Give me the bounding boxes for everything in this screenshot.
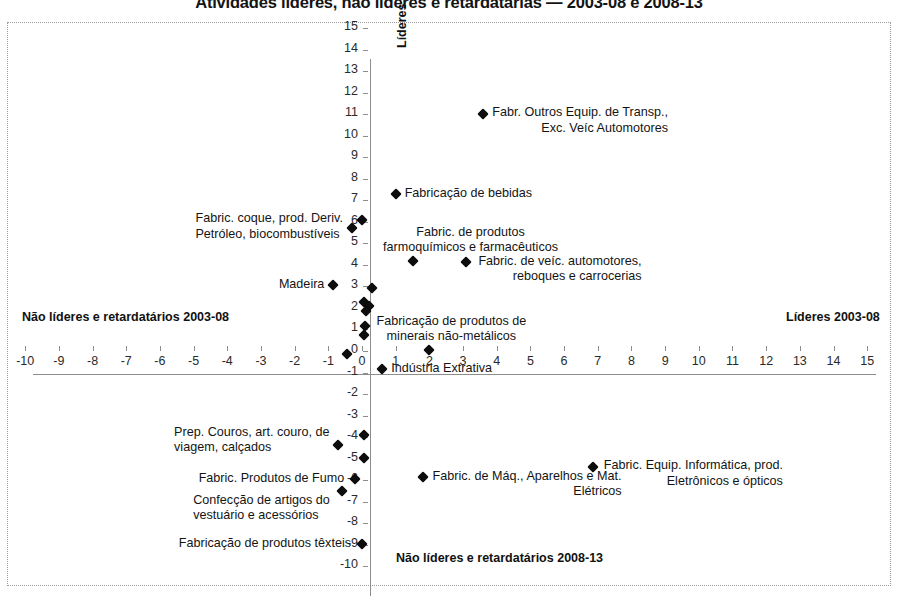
y-axis-tick-label: -3	[336, 407, 358, 421]
y-axis-tick-label: -8	[336, 514, 358, 528]
x-axis-tick-label: -9	[44, 354, 74, 368]
y-axis-tick	[363, 394, 368, 395]
y-axis-tick-label: 9	[336, 148, 358, 162]
y-axis-tick	[363, 416, 368, 417]
x-axis-tick-label: -4	[212, 354, 242, 368]
y-axis-tick	[363, 179, 368, 180]
y-axis-tick-label: 4	[336, 256, 358, 270]
x-axis-tick-label: 5	[515, 354, 545, 368]
x-axis-tick	[598, 346, 599, 351]
data-point-label: Fabricação de produtos têxteis	[179, 536, 351, 552]
x-axis-tick	[732, 346, 733, 351]
data-point-label: Fabricação de produtos de minerais não-m…	[376, 314, 526, 345]
x-axis-tick	[497, 346, 498, 351]
x-axis-tick	[699, 346, 700, 351]
x-axis-tick	[160, 346, 161, 351]
x-axis-tick	[564, 346, 565, 351]
y-axis-tick	[363, 523, 368, 524]
x-axis-tick-label: -7	[111, 354, 141, 368]
y-axis-tick	[363, 71, 368, 72]
x-axis-tick-label: -5	[179, 354, 209, 368]
x-axis-tick	[328, 346, 329, 351]
chart-page: Atividades líderes, não líderes e retard…	[0, 0, 898, 596]
x-axis-tick	[631, 346, 632, 351]
y-axis-tick-label: 3	[336, 277, 358, 291]
x-axis-tick	[261, 346, 262, 351]
y-axis-tick	[363, 50, 368, 51]
x-axis-tick-label: 7	[583, 354, 613, 368]
x-axis-tick-label: 15	[852, 354, 882, 368]
x-axis-tick-label: -3	[246, 354, 276, 368]
y-axis-tick	[363, 373, 368, 374]
y-axis-tick-label: 15	[336, 19, 358, 33]
data-point-label: Fabric. de produtos farmoquímicos e farm…	[383, 225, 558, 256]
data-point-label: Madeira	[279, 277, 325, 293]
y-axis-tick	[363, 114, 368, 115]
x-axis-tick	[834, 346, 835, 351]
x-axis-tick	[93, 346, 94, 351]
data-point-label: Fabric. Equip. Informática, prod. Eletrô…	[604, 458, 783, 489]
x-axis-tick	[463, 346, 464, 351]
y-axis-tick	[363, 157, 368, 158]
x-axis-tick-label: 14	[819, 354, 849, 368]
data-point-label: Fabric. coque, prod. Deriv. Petróleo, bi…	[195, 211, 342, 242]
page-title: Atividades líderes, não líderes e retard…	[0, 0, 898, 12]
y-axis-tick-label: 7	[336, 191, 358, 205]
x-axis-tick-label: 12	[751, 354, 781, 368]
y-axis-tick-label: -10	[336, 557, 358, 571]
x-axis-tick-label: 11	[717, 354, 747, 368]
x-axis-tick	[25, 346, 26, 351]
y-axis-tick	[363, 502, 368, 503]
x-axis-tick-label: -6	[145, 354, 175, 368]
x-axis-tick	[227, 346, 228, 351]
data-point-label: Fabric. Produtos de Fumo	[199, 471, 345, 487]
y-axis-tick-label: 13	[336, 62, 358, 76]
data-point-label: Fabricação de bebidas	[405, 186, 532, 202]
quadrant-caption-bottom: Não líderes e retardatários 2008-13	[396, 551, 603, 565]
y-axis-tick-label: 8	[336, 170, 358, 184]
y-axis-tick-label: -1	[336, 364, 358, 378]
y-axis-tick	[363, 265, 368, 266]
x-axis-tick-label: 13	[785, 354, 815, 368]
x-axis-tick-label: 8	[616, 354, 646, 368]
quadrant-caption-right: Líderes 2003-08	[786, 310, 880, 324]
x-axis-tick	[867, 346, 868, 351]
x-axis-tick	[800, 346, 801, 351]
y-axis-tick	[363, 136, 368, 137]
data-point-label: Confecção de artigos do vestuário e aces…	[193, 493, 330, 524]
x-axis-tick	[766, 346, 767, 351]
x-axis-tick-label: 9	[650, 354, 680, 368]
x-axis-tick	[194, 346, 195, 351]
x-axis-tick-label: 6	[549, 354, 579, 368]
y-axis-tick-label: -5	[336, 450, 358, 464]
y-axis-tick-label: 11	[336, 105, 358, 119]
y-axis-tick	[363, 351, 368, 352]
data-point-label: Prep. Couros, art. couro, de viagem, cal…	[174, 425, 329, 456]
y-axis-tick	[363, 480, 368, 481]
x-axis-tick-label: -10	[10, 354, 40, 368]
quadrant-caption-left: Não líderes e retardatários 2003-08	[22, 310, 229, 324]
x-axis-tick	[665, 346, 666, 351]
y-axis-line	[370, 59, 371, 596]
y-axis-tick	[363, 566, 368, 567]
quadrant-caption-vertical: Líderes 2008-13	[395, 0, 409, 48]
data-point-label: Indústria Extrativa	[391, 361, 492, 377]
data-point-label: Fabric. de veíc. automotores, reboques e…	[478, 254, 641, 285]
y-axis-tick-label: 10	[336, 127, 358, 141]
y-axis-tick-label: 14	[336, 41, 358, 55]
y-axis-tick-label: 12	[336, 84, 358, 98]
x-axis-tick	[530, 346, 531, 351]
y-axis-tick	[363, 243, 368, 244]
y-axis-tick-label: 2	[336, 299, 358, 313]
plot-frame	[7, 22, 891, 586]
x-axis-tick	[295, 346, 296, 351]
y-axis-tick	[363, 200, 368, 201]
x-axis-tick	[126, 346, 127, 351]
y-axis-tick	[363, 28, 368, 29]
y-axis-tick-label: 1	[336, 320, 358, 334]
data-point-label: Fabr. Outros Equip. de Transp., Exc. Veí…	[492, 105, 668, 136]
x-axis-tick-label: 10	[684, 354, 714, 368]
y-axis-tick	[363, 93, 368, 94]
x-axis-tick-label: -2	[280, 354, 310, 368]
x-axis-tick	[59, 346, 60, 351]
